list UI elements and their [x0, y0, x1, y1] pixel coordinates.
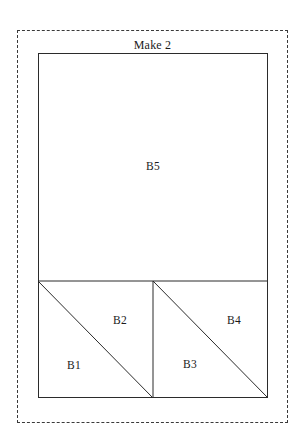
block-diagram: Make 2 B5 B1 B2 B3 B4: [0, 0, 307, 440]
piece-label-b1: B1: [67, 359, 81, 372]
piece-label-b3: B3: [183, 358, 197, 371]
piece-label-b2: B2: [113, 314, 127, 327]
make-quantity-label: Make 2: [17, 38, 288, 52]
piece-label-b4: B4: [227, 314, 241, 327]
block-outline: [38, 53, 268, 398]
piece-label-b5: B5: [146, 160, 160, 173]
